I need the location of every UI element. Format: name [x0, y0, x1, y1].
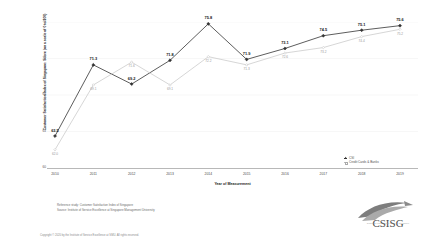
legend-marker-icon	[344, 157, 347, 160]
data-point-label: 72.6	[272, 56, 298, 59]
data-point-marker	[360, 29, 363, 32]
chart-container: Customer Satisfaction Index of Singapore…	[20, 18, 420, 170]
data-point-marker	[322, 34, 325, 37]
y-tick-label: 76	[32, 20, 46, 23]
legend-label: Credit Cards & Banks	[349, 160, 379, 164]
plot-svg	[47, 22, 418, 168]
x-tick-label: 2010	[38, 172, 72, 176]
data-point-label: 62.0	[42, 153, 68, 156]
csisg-logo: CSISG	[355, 196, 421, 230]
data-point-label: 69.2	[119, 77, 145, 81]
legend-marker-icon	[344, 161, 347, 164]
data-point-label: 71.8	[157, 53, 183, 57]
x-tick-label: 2015	[230, 172, 264, 176]
source-line: Source: Institute of Service Excellence …	[57, 208, 155, 213]
y-tick-label: 68	[32, 93, 46, 96]
data-point-label: 72.2	[195, 60, 221, 63]
copyright-line: Copyright © 2020 by the Institute of Ser…	[40, 234, 139, 237]
x-tick-label: 2013	[153, 172, 187, 176]
data-point-label: 71.3	[80, 57, 106, 61]
x-tick-label: 2017	[306, 172, 340, 176]
data-point-label: 71.6	[119, 65, 145, 68]
data-point-marker	[360, 35, 363, 38]
data-point-marker	[398, 24, 401, 27]
data-point-label: 75.2	[387, 33, 413, 36]
x-tick-label: 2012	[115, 172, 149, 176]
x-axis-title: Year of Measurement	[47, 182, 418, 186]
data-point-label: 71.3	[234, 68, 260, 71]
chart-legend: CSI Credit Cards & Banks	[344, 156, 379, 165]
data-point-label: 69.1	[80, 88, 106, 91]
footnotes: Reference study: Customer Satisfaction I…	[57, 203, 155, 212]
data-point-label: 75.1	[349, 23, 375, 27]
data-point-marker	[399, 28, 402, 31]
data-point-marker	[245, 64, 248, 67]
chart-page: Customer Satisfaction Index of Singapore…	[0, 0, 431, 251]
x-axis-line	[47, 168, 418, 169]
legend-item-credit-cards-banks[interactable]: Credit Cards & Banks	[344, 160, 379, 164]
x-tick-label: 2018	[345, 172, 379, 176]
plot-area: Year of Measurement	[47, 22, 418, 168]
data-point-marker	[284, 52, 287, 55]
x-tick-label: 2019	[383, 172, 417, 176]
data-point-marker	[322, 46, 325, 49]
data-point-label: 73.1	[272, 41, 298, 45]
x-tick-label: 2016	[268, 172, 302, 176]
data-point-label: 63.5	[42, 129, 68, 133]
data-point-label: 75.6	[387, 18, 413, 22]
data-point-marker	[53, 135, 56, 138]
data-point-label: 74.5	[310, 28, 336, 32]
logo-caption: Customer Satisfaction Index of Singapore	[352, 222, 424, 224]
data-point-label: 71.9	[234, 52, 260, 56]
x-tick-label: 2014	[191, 172, 225, 176]
data-point-marker	[92, 63, 95, 66]
data-point-label: 74.4	[349, 40, 375, 43]
data-point-marker	[283, 47, 286, 50]
data-point-label: 69.1	[157, 88, 183, 91]
y-tick-label: 72	[32, 57, 46, 60]
x-tick-label: 2011	[76, 172, 110, 176]
data-point-label: 73.2	[310, 51, 336, 54]
data-point-label: 75.8	[195, 16, 221, 20]
y-tick-label: 60	[32, 166, 46, 169]
